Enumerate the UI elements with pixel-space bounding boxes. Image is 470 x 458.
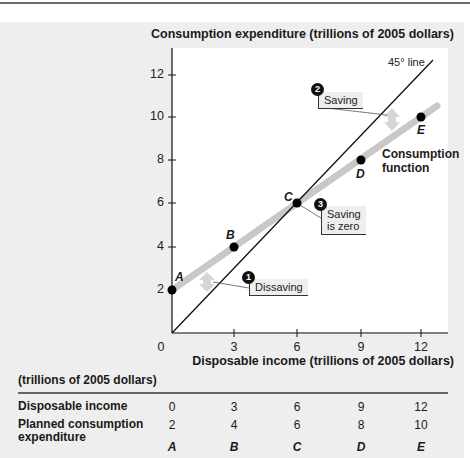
table-cell: 8 (346, 418, 376, 432)
point-a (168, 286, 177, 295)
consumption-function-line (172, 106, 437, 290)
table-cell: 3 (219, 400, 249, 414)
table-letter: C (282, 440, 312, 454)
callout-dissaving: Dissaving (249, 279, 308, 296)
y-tick-label: 8 (144, 152, 164, 166)
y-tick-label: 2 (144, 282, 164, 296)
dissaving-arrow (199, 272, 215, 292)
point-c (293, 199, 302, 208)
y-tick-label: 12 (144, 67, 164, 81)
table-cell: 2 (157, 418, 187, 432)
table-letter: E (406, 440, 436, 454)
x-tick-label: 9 (349, 340, 373, 354)
table-letter: D (346, 440, 376, 454)
point-label-b: B (226, 228, 235, 242)
table-cell: 6 (282, 400, 312, 414)
point-b (230, 243, 239, 252)
y-tick-label: 10 (144, 109, 164, 123)
x-tick-label: 3 (222, 340, 246, 354)
callout-saving-is-zero: Saving is zero (321, 206, 366, 235)
table-letter: A (157, 440, 187, 454)
origin-label: 0 (149, 340, 173, 354)
45-degree-line-label: 45° line (388, 56, 425, 68)
x-axis-title: Disposable income (trillions of 2005 dol… (192, 354, 454, 368)
point-e (417, 113, 426, 122)
y-tick-label: 6 (144, 195, 164, 209)
table-letter: B (219, 440, 249, 454)
chart-graphics (0, 0, 470, 458)
table-cell: 10 (406, 418, 436, 432)
x-tick-label: 6 (285, 340, 309, 354)
point-label-c: C (284, 190, 293, 204)
table-cell: 9 (346, 400, 376, 414)
table-caption: (trillions of 2005 dollars) (18, 373, 157, 387)
point-label-a: A (175, 270, 184, 284)
table-cell: 12 (406, 400, 436, 414)
callout-number-2: 2 (311, 83, 324, 96)
point-label-e: E (417, 123, 425, 137)
callout-number-3: 3 (314, 198, 327, 211)
consumption-function-label: Consumption function (382, 147, 459, 175)
callout-saving: Saving (318, 92, 363, 109)
table-cell: 4 (219, 418, 249, 432)
table-top-rule (18, 392, 448, 394)
row-label-disposable-income: Disposable income (18, 400, 127, 413)
point-d (357, 156, 366, 165)
x-tick-label: 12 (409, 340, 433, 354)
table-cell: 0 (157, 400, 187, 414)
y-axis-title: Consumption expenditure (trillions of 20… (151, 27, 454, 41)
callout-number-1: 1 (242, 271, 255, 284)
table-cell: 6 (282, 418, 312, 432)
y-tick-label: 4 (144, 239, 164, 253)
row-label-planned-consumption: Planned consumption expenditure (18, 418, 143, 444)
point-label-d: D (356, 167, 365, 181)
saving-arrow (384, 108, 400, 131)
